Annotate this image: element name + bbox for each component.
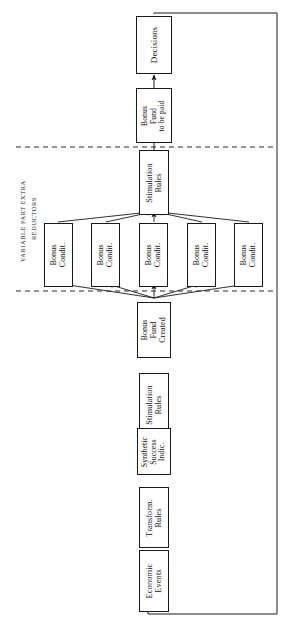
- node-economic-events[interactable]: EconomicEvents: [139, 550, 169, 612]
- node-stimulation-rules-upper[interactable]: StimulationRules: [139, 150, 169, 215]
- node-bonus-condit-1[interactable]: BonusCondit.: [44, 223, 73, 287]
- node-decisions[interactable]: Decisions: [136, 16, 172, 74]
- node-bonus-fund-created[interactable]: BonusFundCreated: [137, 302, 171, 358]
- node-stimulation-rules-lower-label: StimulationRules: [145, 385, 163, 424]
- edge-condit-5-to-stimulation: [159, 212, 249, 222]
- node-transform-rules[interactable]: Transform.Rules: [139, 487, 169, 548]
- node-synthetic-success-indic-label: SyntheticSuccessIndic.: [141, 436, 167, 466]
- edge-condit-1-to-stimulation: [58, 212, 150, 222]
- node-bonus-fund-to-be-paid-label: BonusFundto be paid: [141, 100, 167, 131]
- flowchart-diagram: Decisions BonusFundto be paid Stimulatio…: [0, 0, 295, 642]
- node-bonus-condit-5[interactable]: BonusCondit.: [234, 223, 263, 287]
- section-label-reductors: REDUCTORS: [30, 197, 37, 240]
- node-stimulation-rules-upper-label: StimulationRules: [145, 163, 163, 202]
- node-transform-rules-label: Transform.Rules: [145, 499, 163, 536]
- node-bonus-fund-to-be-paid[interactable]: BonusFundto be paid: [136, 88, 172, 143]
- node-bonus-condit-3-label: BonusCondit.: [145, 243, 163, 267]
- node-synthetic-success-indic[interactable]: SyntheticSuccessIndic.: [137, 428, 171, 475]
- node-bonus-condit-1-label: BonusCondit.: [50, 243, 68, 267]
- node-bonus-condit-4[interactable]: BonusCondit.: [187, 223, 216, 287]
- node-bonus-fund-created-label: BonusFundCreated: [141, 317, 168, 343]
- node-bonus-condit-3[interactable]: BonusCondit.: [139, 223, 168, 287]
- node-decisions-label: Decisions: [149, 27, 159, 63]
- node-bonus-condit-2-label: BonusCondit.: [97, 243, 115, 267]
- section-label-variable-part-extra: VARIABLE PART EXTRA: [19, 180, 26, 262]
- node-bonus-condit-4-label: BonusCondit.: [193, 243, 211, 267]
- node-bonus-condit-5-label: BonusCondit.: [240, 243, 258, 267]
- node-economic-events-label: EconomicEvents: [145, 564, 164, 599]
- node-bonus-condit-2[interactable]: BonusCondit.: [91, 223, 120, 287]
